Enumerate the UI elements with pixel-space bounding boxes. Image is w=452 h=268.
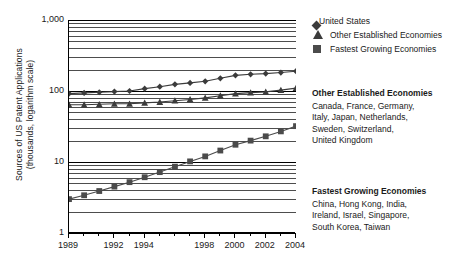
x-tick-major bbox=[113, 233, 114, 238]
data-point bbox=[69, 90, 72, 96]
data-point bbox=[263, 70, 269, 76]
note-other-established-economies: Other Established Economies Canada, Fran… bbox=[312, 88, 432, 147]
y-tick-label: 1 bbox=[24, 227, 64, 237]
legend-item: United States bbox=[312, 14, 442, 27]
x-tick-minor bbox=[83, 233, 84, 236]
data-point bbox=[293, 123, 296, 129]
x-tick-minor bbox=[219, 233, 220, 236]
series-layer bbox=[69, 20, 296, 233]
data-point bbox=[187, 158, 193, 164]
x-tick-major bbox=[265, 233, 266, 238]
data-point bbox=[202, 78, 208, 84]
note-fastest-growing-economies: Fastest Growing Economies China, Hong Ko… bbox=[312, 186, 426, 233]
data-point bbox=[187, 80, 193, 86]
chart-page: Sources of US Patent Applications (thous… bbox=[0, 0, 452, 268]
note-heading: Fastest Growing Economies bbox=[312, 186, 426, 198]
data-point bbox=[69, 196, 72, 202]
legend-item: Fastest Growing Economies bbox=[312, 42, 442, 55]
legend-label: Other Established Economies bbox=[330, 30, 442, 40]
plot-area bbox=[68, 20, 295, 233]
data-point bbox=[172, 164, 178, 170]
data-point bbox=[157, 169, 163, 175]
x-tick-major bbox=[204, 233, 205, 238]
data-point bbox=[126, 88, 132, 94]
x-tick-major bbox=[295, 233, 296, 238]
x-tick-label: 2004 bbox=[275, 240, 315, 250]
data-point bbox=[248, 138, 254, 144]
data-point bbox=[172, 81, 178, 87]
data-point bbox=[111, 89, 117, 95]
note-body: Canada, France, Germany, Italy, Japan, N… bbox=[312, 101, 432, 147]
y-tick-label: 10 bbox=[24, 156, 64, 166]
legend: United StatesOther Established Economies… bbox=[312, 14, 442, 56]
legend-label: Fastest Growing Economies bbox=[330, 44, 436, 54]
x-tick-minor bbox=[250, 233, 251, 236]
y-tick-label: 100 bbox=[24, 85, 64, 95]
square-marker-icon bbox=[312, 43, 323, 54]
x-tick-major bbox=[144, 233, 145, 238]
data-point bbox=[127, 179, 133, 185]
y-axis-tick-labels: 1,000100101 bbox=[22, 20, 64, 233]
series-square bbox=[69, 123, 296, 202]
data-point bbox=[81, 192, 87, 198]
data-point bbox=[293, 68, 296, 74]
data-point bbox=[278, 69, 284, 75]
data-point bbox=[96, 188, 102, 194]
x-tick-minor bbox=[280, 233, 281, 236]
x-tick-minor bbox=[159, 233, 160, 236]
data-point bbox=[217, 75, 223, 81]
x-tick-label: 1994 bbox=[124, 240, 164, 250]
data-point bbox=[278, 128, 284, 134]
legend-label: United States bbox=[319, 16, 370, 26]
data-point bbox=[232, 72, 238, 78]
data-point bbox=[202, 153, 208, 159]
x-tick-minor bbox=[98, 233, 99, 236]
data-point bbox=[112, 184, 118, 190]
x-tick-minor bbox=[174, 233, 175, 236]
x-tick-minor bbox=[129, 233, 130, 236]
x-tick-major bbox=[234, 233, 235, 238]
data-point bbox=[263, 133, 269, 139]
data-point bbox=[248, 71, 254, 77]
x-tick-minor bbox=[189, 233, 190, 236]
series-triangle bbox=[69, 85, 296, 108]
note-body: China, Hong Kong, India, Ireland, Israel… bbox=[312, 199, 426, 234]
data-point bbox=[81, 90, 87, 96]
data-point bbox=[217, 148, 223, 154]
data-point bbox=[157, 84, 163, 90]
triangle-marker-icon bbox=[312, 29, 323, 40]
x-tick-label: 1989 bbox=[48, 240, 88, 250]
data-point bbox=[142, 86, 148, 92]
legend-item: Other Established Economies bbox=[312, 28, 442, 41]
x-tick-major bbox=[68, 233, 69, 238]
gridline-major bbox=[69, 233, 296, 234]
y-tick-label: 1,000 bbox=[24, 14, 64, 24]
note-heading: Other Established Economies bbox=[312, 88, 432, 100]
data-point bbox=[233, 142, 239, 148]
data-point bbox=[142, 174, 148, 180]
data-point bbox=[96, 89, 102, 95]
